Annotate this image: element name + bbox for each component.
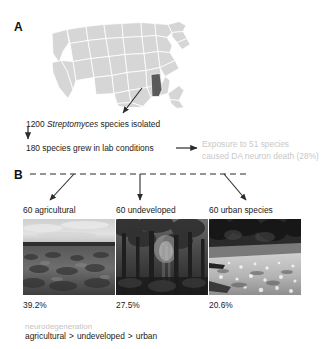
photo-undeveloped-svg	[116, 219, 208, 295]
group-urban-label: 60 urban species	[209, 205, 303, 215]
photo-urban-roadside	[209, 219, 301, 295]
branching-arrows	[28, 168, 288, 210]
branch-arrow-agricultural	[50, 174, 74, 200]
group-agricultural-label: 60 agricultural	[23, 205, 117, 215]
flow-vertical-arrow	[24, 127, 38, 144]
footer-rank-2: undeveloped	[77, 331, 125, 341]
flow-step-2: 180 species grew in lab conditions	[26, 143, 154, 154]
footer-rank-3: urban	[136, 331, 157, 341]
flow-result-line-2: caused DA neuron death (28%)	[202, 150, 319, 162]
panel-b-label: B	[14, 168, 23, 182]
group-urban-percent: 20.6%	[209, 300, 303, 310]
group-undeveloped: 60 undeveloped	[116, 205, 210, 310]
branch-arrow-urban	[224, 174, 246, 200]
flow-step-1-suffix: species isolated	[98, 119, 160, 129]
flow-step-1: 1200 Streptomyces species isolated	[26, 119, 160, 130]
group-agricultural-percent: 39.2%	[23, 300, 117, 310]
photo-agricultural-svg	[23, 219, 115, 295]
group-agricultural: 60 agricultural	[23, 205, 117, 310]
footer-rank-operator-1: >	[66, 331, 77, 341]
group-undeveloped-percent: 27.5%	[116, 300, 210, 310]
flow-result-text: Exposure to 51 species caused DA neuron …	[202, 138, 319, 162]
footer-ranking: agricultural>undeveloped>urban	[25, 331, 157, 342]
flow-step-1-species: Streptomyces	[47, 119, 98, 129]
photo-urban-svg	[209, 219, 301, 295]
map-to-flow-arrow	[112, 86, 152, 120]
panel-a-label: A	[14, 20, 23, 34]
highlighted-state-alabama	[151, 74, 162, 97]
group-undeveloped-label: 60 undeveloped	[116, 205, 210, 215]
photo-agricultural-field	[23, 219, 115, 295]
photo-undeveloped-forest	[116, 219, 208, 295]
figure-canvas: A	[0, 0, 326, 349]
footer-rank-operator-2: >	[125, 331, 136, 341]
flow-result-line-1: Exposure to 51 species	[202, 138, 319, 150]
footer-rank-1: agricultural	[25, 331, 66, 341]
group-urban: 60 urban species	[209, 205, 303, 310]
